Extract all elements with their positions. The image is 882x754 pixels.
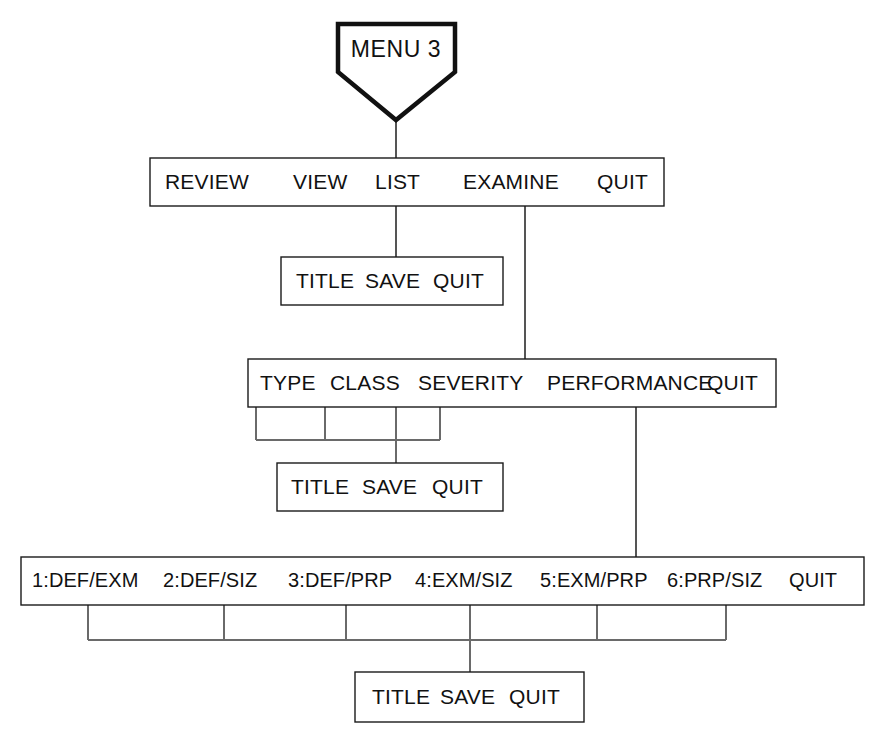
performance-option-1[interactable]: 1:DEF/EXM [32, 569, 138, 591]
node-main-menu-bar[interactable]: REVIEW VIEW LIST EXAMINE QUIT [150, 158, 664, 206]
examine-attribute-item-quit[interactable]: QUIT [432, 475, 483, 498]
examine-item-quit[interactable]: QUIT [707, 371, 758, 394]
flowchart-canvas: MENU 3 REVIEW VIEW LIST EXAMINE QUIT TIT… [0, 0, 882, 754]
list-submenu-item-save[interactable]: SAVE [365, 269, 420, 292]
node-list-submenu-bar[interactable]: TITLE SAVE QUIT [281, 257, 503, 305]
menu-item-view[interactable]: VIEW [293, 170, 347, 193]
node-root-menu3[interactable]: MENU 3 [338, 24, 455, 120]
performance-option-6[interactable]: 6:PRP/SIZ [667, 569, 762, 591]
examine-item-class[interactable]: CLASS [330, 371, 400, 394]
performance-option-item-quit[interactable]: QUIT [509, 685, 560, 708]
examine-item-severity[interactable]: SEVERITY [418, 371, 523, 394]
node-examine-attribute-submenu-bar[interactable]: TITLE SAVE QUIT [277, 463, 503, 511]
menu-item-list[interactable]: LIST [375, 170, 420, 193]
performance-option-3[interactable]: 3:DEF/PRP [288, 569, 392, 591]
examine-attribute-item-save[interactable]: SAVE [362, 475, 417, 498]
node-examine-submenu-bar[interactable]: TYPE CLASS SEVERITY PERFORMANCE QUIT [248, 359, 776, 407]
performance-option-quit[interactable]: QUIT [789, 569, 837, 591]
examine-attribute-item-title[interactable]: TITLE [291, 475, 349, 498]
root-menu-label: MENU 3 [351, 36, 442, 62]
menu-hierarchy-diagram: MENU 3 REVIEW VIEW LIST EXAMINE QUIT TIT… [0, 0, 882, 754]
examine-item-type[interactable]: TYPE [260, 371, 316, 394]
menu-item-quit[interactable]: QUIT [597, 170, 648, 193]
menu-item-review[interactable]: REVIEW [165, 170, 249, 193]
examine-item-performance[interactable]: PERFORMANCE [547, 371, 713, 394]
performance-option-2[interactable]: 2:DEF/SIZ [163, 569, 257, 591]
performance-option-4[interactable]: 4:EXM/SIZ [415, 569, 513, 591]
performance-option-item-title[interactable]: TITLE [372, 685, 430, 708]
performance-option-item-save[interactable]: SAVE [440, 685, 495, 708]
list-submenu-item-title[interactable]: TITLE [296, 269, 354, 292]
performance-option-5[interactable]: 5:EXM/PRP [540, 569, 648, 591]
node-performance-option-submenu-bar[interactable]: TITLE SAVE QUIT [355, 672, 584, 722]
list-submenu-item-quit[interactable]: QUIT [433, 269, 484, 292]
menu-item-examine[interactable]: EXAMINE [463, 170, 559, 193]
node-performance-submenu-bar[interactable]: 1:DEF/EXM 2:DEF/SIZ 3:DEF/PRP 4:EXM/SIZ … [21, 557, 864, 605]
